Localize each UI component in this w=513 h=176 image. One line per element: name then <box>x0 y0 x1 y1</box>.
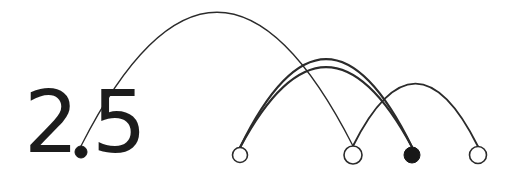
diagram-canvas: 25 <box>0 0 513 176</box>
node-filled <box>75 146 87 158</box>
arc-diagram-figure: 25 <box>0 0 513 176</box>
node-hollow <box>470 147 487 164</box>
numeral-digit-5: 5 <box>92 72 147 172</box>
numeral-digit-2: 2 <box>24 72 79 172</box>
arc-edge <box>240 67 412 147</box>
node-hollow <box>233 148 248 163</box>
arc-edge <box>240 59 412 147</box>
arc-edge <box>353 84 478 147</box>
node-hollow <box>344 146 362 164</box>
node-filled <box>404 147 420 163</box>
